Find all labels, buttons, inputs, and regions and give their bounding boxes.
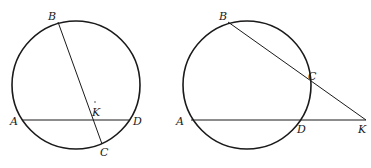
center-dot	[94, 101, 95, 102]
label-b: B	[218, 10, 227, 23]
geometry-diagram: B A K D C B C A D K	[0, 0, 371, 168]
chord-bc	[58, 22, 102, 144]
label-b: B	[47, 10, 56, 23]
secant-bk	[228, 22, 366, 120]
circle	[183, 21, 311, 149]
figure-left: B A K D C	[9, 10, 142, 159]
circle	[12, 21, 140, 149]
label-a: A	[175, 115, 184, 128]
label-k: K	[91, 106, 101, 119]
label-d: D	[296, 123, 306, 136]
label-d: D	[132, 115, 142, 128]
label-k: K	[357, 123, 367, 136]
figure-right: B C A D K	[175, 10, 367, 149]
label-a: A	[9, 115, 18, 128]
label-c: C	[100, 146, 109, 159]
label-c: C	[308, 70, 317, 83]
